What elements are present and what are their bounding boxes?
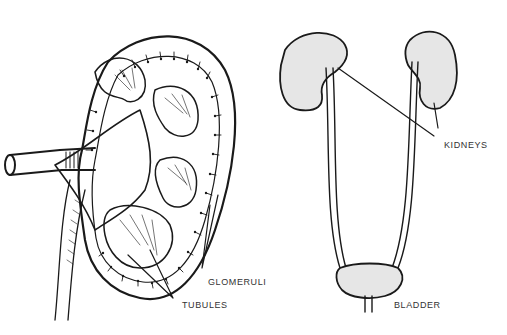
left-kidney [280, 33, 347, 111]
bladder [336, 264, 402, 299]
kidneys-label: KIDNEYS [444, 140, 488, 150]
glomeruli-dots [86, 52, 221, 288]
kidney-cross-section [5, 36, 235, 320]
bladder-label: BLADDER [394, 300, 441, 310]
right-kidney [406, 32, 457, 109]
kidney-capsule [79, 36, 236, 299]
urinary-system [280, 32, 457, 312]
tubules-label: TUBULES [182, 300, 228, 310]
glomeruli-label: GLOMERULI [208, 277, 266, 287]
